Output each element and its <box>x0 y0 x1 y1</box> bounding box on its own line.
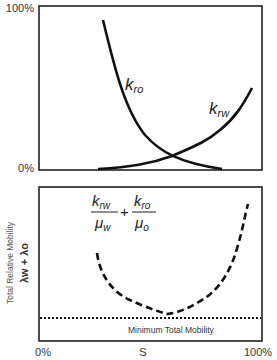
bottom-y-axis-label: Total Relative Mobility <box>5 221 15 304</box>
total-mobility-curve <box>97 204 248 314</box>
chart-figure: 100% 0% kro krw krw μw + kro μo Minimum … <box>0 0 277 360</box>
mobility-formula: krw μw + kro μo <box>91 192 156 233</box>
svg-text:+: + <box>120 203 129 220</box>
svg-text:μo: μo <box>134 214 149 233</box>
kro-curve <box>103 20 222 169</box>
x-tick-100: 100% <box>244 346 272 358</box>
x-axis-label-s: S <box>139 346 146 358</box>
top-y-tick-0: 0% <box>18 162 34 174</box>
minimum-total-mobility-label: Minimum Total Mobility <box>128 325 215 335</box>
bottom-y-axis-label-symbol: λw + λo <box>18 243 30 283</box>
krw-label: krw <box>209 99 230 119</box>
svg-text:krw: krw <box>92 192 111 211</box>
top-plot-frame <box>39 6 262 170</box>
svg-text:kro: kro <box>134 192 151 211</box>
top-y-tick-100: 100% <box>6 2 34 14</box>
kro-label: kro <box>125 75 143 95</box>
svg-text:μw: μw <box>94 214 111 233</box>
x-tick-0: 0% <box>35 346 51 358</box>
